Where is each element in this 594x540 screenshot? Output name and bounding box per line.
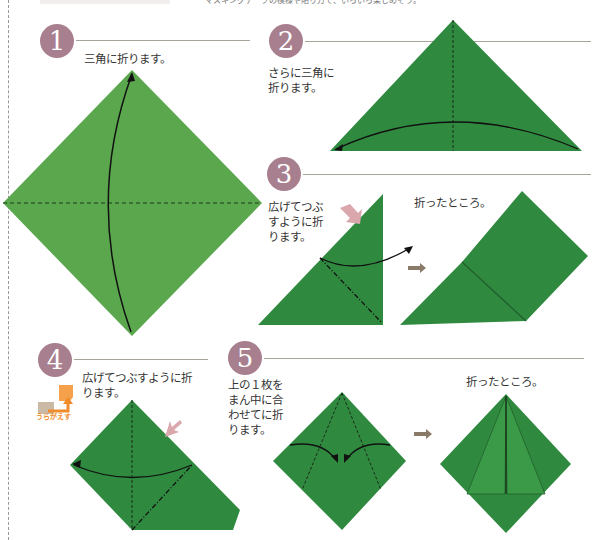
step-5-paper bbox=[273, 392, 406, 530]
next-arrow-icon bbox=[414, 429, 432, 439]
step-5-diagram bbox=[0, 0, 594, 540]
